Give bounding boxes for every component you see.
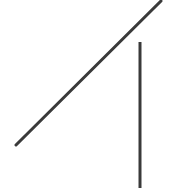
line-diagram [0, 0, 171, 188]
